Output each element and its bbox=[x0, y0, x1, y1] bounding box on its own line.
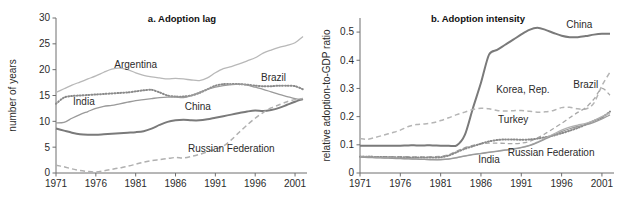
x-tick-label: 1981 bbox=[430, 178, 453, 189]
panel-title: a. Adoption lag bbox=[148, 13, 216, 24]
y-axis-title: relative adoption-to-GDP ratio bbox=[321, 29, 332, 162]
y-tick-label: 0 bbox=[348, 167, 354, 178]
chart-panel-adoption-lag: 0510152025301971197619811986199119962001… bbox=[0, 0, 318, 202]
series-label-turkey: Turkey bbox=[498, 114, 528, 125]
x-tick-label: 1981 bbox=[125, 178, 148, 189]
y-tick-label: 10 bbox=[39, 116, 51, 127]
series-label-russian-federation: Russian Federation bbox=[188, 143, 275, 154]
y-tick-label: 0.1 bbox=[340, 139, 354, 150]
y-tick-label: 15 bbox=[39, 90, 51, 101]
adoption-intensity-svg: 00.10.20.30.40.5197119761981198619911996… bbox=[318, 0, 636, 202]
y-tick-label: 0.4 bbox=[340, 55, 354, 66]
series-label-china: China bbox=[185, 101, 212, 112]
series-label-russian-federation: Russian Federation bbox=[508, 147, 595, 158]
series-label-india: India bbox=[478, 154, 500, 165]
x-tick-label: 1976 bbox=[389, 178, 412, 189]
y-tick-label: 0.3 bbox=[340, 83, 354, 94]
y-tick-label: 30 bbox=[39, 12, 51, 23]
x-tick-label: 2001 bbox=[591, 178, 614, 189]
x-tick-label: 1996 bbox=[244, 178, 267, 189]
series-label-india: India bbox=[73, 96, 95, 107]
x-tick-label: 2001 bbox=[284, 178, 307, 189]
y-tick-label: 5 bbox=[44, 142, 50, 153]
x-tick-label: 1991 bbox=[510, 178, 533, 189]
x-tick-label: 1986 bbox=[164, 178, 187, 189]
y-tick-label: 0 bbox=[44, 167, 50, 178]
y-axis-title: number of years bbox=[7, 59, 18, 131]
series-label-brazil: Brazil bbox=[573, 79, 598, 90]
y-tick-label: 25 bbox=[39, 38, 51, 49]
panel-title: b. Adoption intensity bbox=[431, 13, 526, 24]
adoption-lag-svg: 0510152025301971197619811986199119962001… bbox=[0, 0, 318, 202]
x-tick-label: 1976 bbox=[85, 178, 108, 189]
chart-panel-adoption-intensity: 00.10.20.30.40.5197119761981198619911996… bbox=[318, 0, 636, 202]
figure-container: 0510152025301971197619811986199119962001… bbox=[0, 0, 636, 202]
series-label-korea-rep: Korea, Rep. bbox=[496, 84, 549, 95]
x-tick-label: 1996 bbox=[550, 178, 573, 189]
x-tick-label: 1991 bbox=[204, 178, 227, 189]
x-tick-label: 1986 bbox=[470, 178, 493, 189]
x-tick-label: 1971 bbox=[45, 178, 68, 189]
y-tick-label: 20 bbox=[39, 64, 51, 75]
series-label-brazil: Brazil bbox=[261, 72, 286, 83]
x-tick-label: 1971 bbox=[349, 178, 372, 189]
series-label-argentina: Argentina bbox=[114, 59, 157, 70]
y-tick-label: 0.2 bbox=[340, 111, 354, 122]
series-line-argentina bbox=[56, 37, 303, 93]
y-tick-label: 0.5 bbox=[340, 26, 354, 37]
series-label-china: China bbox=[566, 19, 593, 30]
